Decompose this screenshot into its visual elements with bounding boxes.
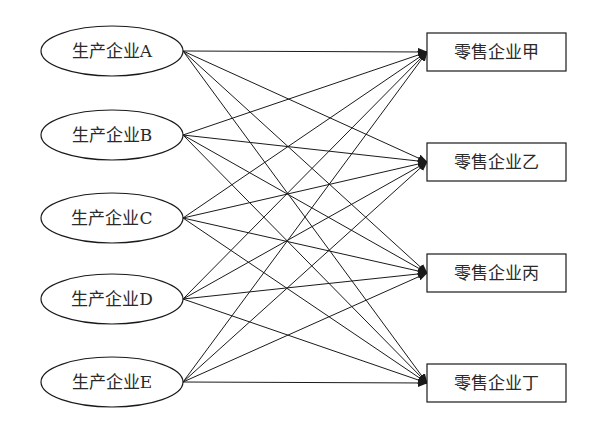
edge-D-yi: [183, 162, 427, 299]
retailer-label: 零售企业乙: [454, 152, 539, 172]
producer-node-E: 生产企业E: [41, 357, 183, 407]
producers-group: 生产企业A生产企业B生产企业C生产企业D生产企业E: [41, 26, 183, 407]
retailer-label: 零售企业甲: [454, 42, 539, 62]
edge-C-yi: [183, 162, 427, 218]
producer-node-B: 生产企业B: [41, 110, 183, 160]
retailer-node-bing: 零售企业丙: [427, 254, 566, 292]
producer-node-C: 生产企业C: [41, 193, 183, 243]
producer-label: 生产企业C: [71, 208, 152, 228]
producer-label: 生产企业E: [72, 372, 152, 392]
edge-B-ding: [183, 135, 427, 383]
retailer-label: 零售企业丙: [454, 263, 539, 283]
retailer-node-ding: 零售企业丁: [427, 364, 566, 402]
edge-B-yi: [183, 135, 427, 162]
edge-D-ding: [183, 299, 427, 383]
edge-B-jia: [183, 52, 427, 135]
retailers-group: 零售企业甲零售企业乙零售企业丙零售企业丁: [427, 33, 566, 402]
retailer-node-jia: 零售企业甲: [427, 33, 566, 71]
edge-A-bing: [183, 51, 427, 273]
edge-A-yi: [183, 51, 427, 162]
edge-D-jia: [183, 52, 427, 299]
producer-node-A: 生产企业A: [41, 26, 183, 76]
retailer-node-yi: 零售企业乙: [427, 143, 566, 181]
edge-A-jia: [183, 51, 427, 52]
producer-node-D: 生产企业D: [41, 274, 183, 324]
diagram-canvas: 生产企业A生产企业B生产企业C生产企业D生产企业E 零售企业甲零售企业乙零售企业…: [0, 0, 602, 435]
edge-C-jia: [183, 52, 427, 218]
edge-E-bing: [183, 273, 427, 382]
edges-group: [183, 51, 427, 383]
edge-C-ding: [183, 218, 427, 383]
retailer-label: 零售企业丁: [454, 373, 539, 393]
edge-E-ding: [183, 382, 427, 383]
edge-E-yi: [183, 162, 427, 382]
producer-label: 生产企业A: [72, 41, 153, 61]
edge-D-bing: [183, 273, 427, 299]
producer-label: 生产企业D: [71, 289, 153, 309]
edge-B-bing: [183, 135, 427, 273]
producer-label: 生产企业B: [72, 125, 153, 145]
edge-C-bing: [183, 218, 427, 273]
